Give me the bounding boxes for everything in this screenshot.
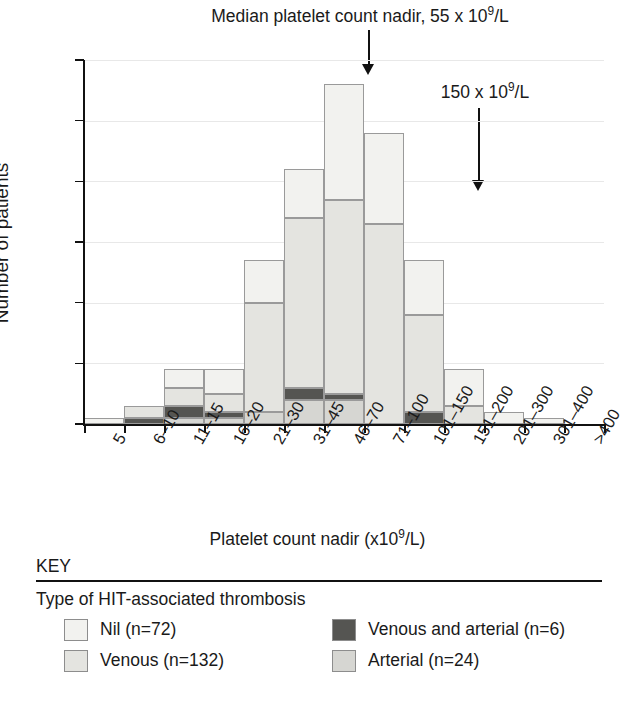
x-axis-tick	[84, 424, 86, 433]
gridline	[84, 60, 604, 61]
legend-items: Nil (n=72)Venous and arterial (n=6)Venou…	[36, 619, 602, 672]
legend-swatch	[332, 619, 356, 641]
legend: KEY Type of HIT-associated thrombosis Ni…	[36, 556, 602, 672]
bar-segment	[204, 369, 244, 393]
bar-segment	[364, 133, 404, 224]
bar-segment	[284, 218, 324, 388]
legend-divider	[36, 580, 602, 582]
median-annotation-label: Median platelet count nadir, 55 x 109/L	[150, 6, 570, 27]
y-axis-tick	[75, 59, 84, 61]
bar-segment	[284, 169, 324, 218]
y-axis-tick	[75, 363, 84, 365]
x-axis-tick-label: 5	[109, 430, 130, 447]
bar-segment	[244, 303, 284, 412]
legend-item-label: Nil (n=72)	[100, 619, 176, 640]
legend-swatch	[64, 619, 88, 641]
bar-segment	[284, 388, 324, 400]
legend-item: Venous and arterial (n=6)	[304, 619, 602, 641]
bar	[324, 84, 364, 424]
legend-item: Nil (n=72)	[36, 619, 304, 641]
x-axis-tick	[124, 424, 126, 433]
y-axis-tick	[75, 423, 84, 425]
y-axis-tick	[75, 120, 84, 122]
legend-swatch	[332, 650, 356, 672]
legend-item: Arterial (n=24)	[304, 650, 602, 672]
y-axis-tick	[75, 181, 84, 183]
y-axis-tick	[75, 241, 84, 243]
bar-segment	[324, 84, 364, 199]
x-axis-title: Platelet count nadir (x109/L)	[0, 529, 635, 550]
bar-segment	[324, 200, 364, 394]
y-axis-tick	[75, 302, 84, 304]
bar-segment	[164, 369, 204, 387]
legend-subheading: Type of HIT-associated thrombosis	[36, 589, 602, 610]
bar-segment	[244, 260, 284, 302]
legend-swatch	[64, 650, 88, 672]
bar	[284, 169, 324, 424]
chart-figure: Median platelet count nadir, 55 x 109/L …	[0, 0, 635, 708]
bar-segment	[324, 394, 364, 400]
bar-segment	[404, 260, 444, 315]
bar-segment	[364, 224, 404, 424]
x-axis-tick-label: >400	[589, 406, 624, 448]
bar	[364, 133, 404, 424]
legend-item-label: Venous and arterial (n=6)	[368, 619, 565, 640]
y-axis-title: Number of patients	[0, 53, 13, 433]
bar-segment	[164, 388, 204, 406]
legend-item: Venous (n=132)	[36, 650, 304, 672]
bar-segment	[124, 406, 164, 418]
legend-item-label: Arterial (n=24)	[368, 650, 479, 671]
plot-area: 0102030405060 Number of patients 56–1011…	[84, 60, 604, 424]
legend-heading: KEY	[36, 556, 602, 577]
legend-item-label: Venous (n=132)	[100, 650, 224, 671]
